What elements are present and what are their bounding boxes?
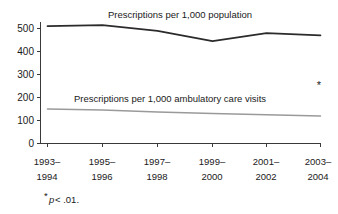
- x-tick-label-line1: 1995–: [89, 156, 116, 167]
- y-tick-label: 0: [28, 138, 34, 149]
- y-tick-label: 100: [17, 115, 34, 126]
- series-line-prescriptions-per-visits: [48, 109, 321, 116]
- footnote-comparison: < .01.: [55, 194, 79, 205]
- series-label-population: Prescriptions per 1,000 population: [108, 9, 252, 20]
- footnote: * p < .01.: [44, 190, 79, 205]
- line-chart: 0 100 200 300 400 500 Prescriptions per …: [0, 0, 338, 214]
- series-line-prescriptions-per-population: [48, 25, 321, 41]
- x-tick-label-line1: 2001–: [253, 156, 280, 167]
- chart-figure: 0 100 200 300 400 500 Prescriptions per …: [0, 0, 338, 214]
- x-tick-label-line1: 1997–: [144, 156, 171, 167]
- y-tick-label: 200: [17, 92, 34, 103]
- y-tick-label: 400: [17, 46, 34, 57]
- y-axis-tick-labels: 0 100 200 300 400 500: [17, 23, 34, 149]
- y-tick-label: 300: [17, 69, 34, 80]
- y-tick-marks: [37, 29, 41, 144]
- x-tick-label-line2: 2004: [307, 171, 328, 182]
- x-tick-label-line1: 2003–: [305, 156, 332, 167]
- footnote-asterisk: *: [44, 190, 48, 201]
- x-tick-marks: [48, 144, 321, 148]
- footnote-statistic-symbol: p: [48, 194, 54, 205]
- x-tick-label-line2: 2000: [201, 171, 222, 182]
- x-tick-label-line2: 1998: [146, 171, 167, 182]
- x-tick-label-line1: 1999–: [199, 156, 226, 167]
- series-label-ambulatory-visits: Prescriptions per 1,000 ambulatory care …: [74, 93, 266, 104]
- x-tick-label-line1: 1993–: [34, 156, 61, 167]
- x-tick-label-line2: 1996: [91, 171, 112, 182]
- x-tick-label-line2: 1994: [36, 171, 57, 182]
- y-tick-label: 500: [17, 23, 34, 34]
- x-tick-label-line2: 2002: [255, 171, 276, 182]
- x-axis-tick-labels: 1993– 1994 1995– 1996 1997– 1998 1999– 2…: [34, 156, 332, 182]
- significance-asterisk: *: [317, 79, 322, 91]
